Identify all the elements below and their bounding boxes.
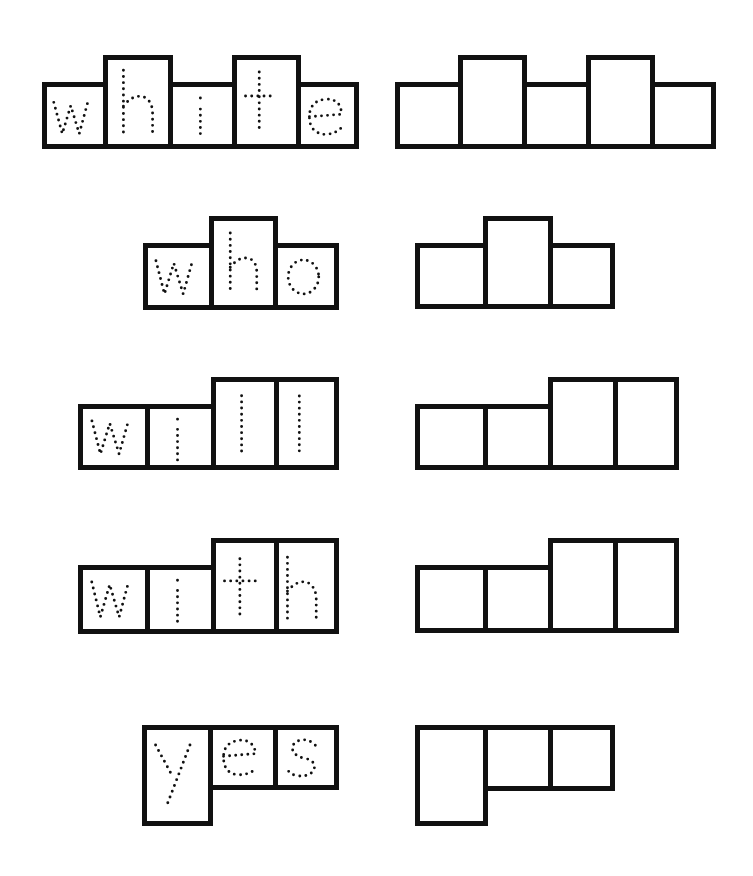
letter-box-w — [78, 565, 150, 634]
dotted-letter-w-icon — [148, 248, 209, 305]
blank-box-tall[interactable] — [586, 55, 655, 149]
dotted-letter-t-icon — [216, 543, 274, 629]
dotted-letter-h-icon — [279, 543, 334, 629]
dotted-letter-l-icon — [279, 382, 334, 465]
dotted-letter-i-icon — [173, 87, 232, 144]
dotted-letter-h-icon — [214, 221, 273, 305]
letter-box-h — [209, 216, 278, 310]
blank-box-short[interactable] — [483, 565, 553, 633]
blank-box-tall[interactable] — [613, 538, 679, 633]
blank-box-short[interactable] — [415, 243, 488, 309]
dotted-letter-y-icon — [147, 730, 208, 821]
letter-box-h — [103, 55, 173, 149]
blank-box-short[interactable] — [395, 82, 463, 149]
dotted-letter-e-icon — [301, 87, 354, 144]
dotted-letter-s-icon — [278, 730, 334, 785]
letter-box-w — [78, 404, 150, 470]
dotted-letter-w-icon — [83, 409, 145, 465]
letter-box-t — [211, 538, 279, 634]
letter-box-o — [273, 243, 339, 310]
letter-box-w — [143, 243, 214, 310]
dotted-letter-h-icon — [108, 60, 168, 144]
letter-box-y — [142, 725, 213, 826]
letter-box-i — [168, 82, 237, 149]
blank-box-short[interactable] — [415, 565, 488, 633]
blank-box-tall[interactable] — [548, 377, 618, 470]
letter-box-i — [145, 404, 216, 470]
dotted-letter-i-icon — [150, 570, 211, 629]
letter-box-w — [42, 82, 108, 149]
letter-box-l — [274, 377, 339, 470]
letter-box-s — [273, 725, 339, 790]
blank-box-tall[interactable] — [483, 216, 553, 309]
blank-box-short[interactable] — [548, 725, 615, 791]
blank-box-short[interactable] — [522, 82, 591, 149]
blank-box-short[interactable] — [483, 404, 553, 470]
blank-box-short[interactable] — [650, 82, 716, 149]
dotted-letter-t-icon — [237, 60, 296, 144]
letter-box-h — [274, 538, 339, 634]
dotted-letter-e-icon — [213, 730, 273, 785]
blank-box-tall[interactable] — [458, 55, 527, 149]
blank-box-tall[interactable] — [548, 538, 618, 633]
blank-box-short[interactable] — [415, 404, 488, 470]
blank-box-tall[interactable] — [613, 377, 679, 470]
dotted-letter-o-icon — [278, 248, 334, 305]
dotted-letter-w-icon — [83, 570, 145, 629]
blank-box-descender[interactable] — [415, 725, 488, 826]
letter-box-i — [145, 565, 216, 634]
letter-box-t — [232, 55, 301, 149]
dotted-letter-w-icon — [47, 87, 103, 144]
dotted-letter-i-icon — [150, 409, 211, 465]
letter-box-e — [208, 725, 278, 790]
blank-box-short[interactable] — [483, 725, 553, 791]
blank-box-short[interactable] — [548, 243, 615, 309]
dotted-letter-l-icon — [216, 382, 274, 465]
letter-box-e — [296, 82, 359, 149]
letter-box-l — [211, 377, 279, 470]
